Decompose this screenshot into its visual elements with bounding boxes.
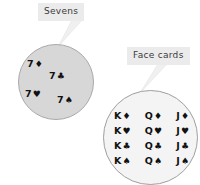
card-king-hearts: K♥ [114, 126, 130, 136]
spade-suit-icon: ♠ [64, 95, 73, 105]
card-rank: Q [145, 140, 153, 151]
card-queen-spades: Q♠ [145, 156, 162, 166]
diamond-suit-icon: ♦ [180, 111, 189, 121]
diamond-suit-icon: ♦ [34, 59, 43, 69]
card-jack-hearts: J♥ [176, 126, 189, 136]
face-cards-row-clubs: K♣ Q♣ J♣ [114, 141, 189, 151]
face-cards-row-diamonds: K♦ Q♦ J♦ [114, 111, 189, 121]
face-cards-callout-label: Face cards [127, 47, 190, 65]
card-rank: 7 [25, 88, 32, 99]
card-seven-clubs: 7♣ [49, 71, 65, 81]
heart-suit-icon: ♥ [32, 89, 41, 99]
heart-suit-icon: ♥ [121, 126, 130, 136]
card-jack-spades: J♠ [176, 156, 189, 166]
card-seven-diamonds: 7♦ [27, 59, 43, 69]
card-rank: Q [145, 155, 153, 166]
card-seven-spades: 7♠ [57, 95, 73, 105]
diamond-suit-icon: ♦ [153, 111, 162, 121]
card-seven-hearts: 7♥ [25, 89, 41, 99]
club-suit-icon: ♣ [180, 141, 189, 151]
card-sets-diagram: 7♦ 7♣ 7♥ 7♠ K♦ Q♦ J♦ K♥ Q♥ J♥ K♣ [0, 0, 200, 185]
sevens-set-circle: 7♦ 7♣ 7♥ 7♠ [18, 44, 94, 120]
heart-suit-icon: ♥ [180, 126, 189, 136]
card-queen-clubs: Q♣ [145, 141, 162, 151]
face-cards-row-hearts: K♥ Q♥ J♥ [114, 126, 189, 136]
face-cards-set-circle: K♦ Q♦ J♦ K♥ Q♥ J♥ K♣ Q♣ J♣ K♠ Q♠ J♠ [103, 90, 198, 185]
card-rank: Q [145, 110, 153, 121]
card-rank: 7 [27, 58, 34, 69]
spade-suit-icon: ♠ [121, 156, 130, 166]
club-suit-icon: ♣ [121, 141, 130, 151]
card-rank: Q [145, 125, 153, 136]
club-suit-icon: ♣ [56, 71, 65, 81]
spade-suit-icon: ♠ [153, 156, 162, 166]
card-jack-clubs: J♣ [176, 141, 189, 151]
face-cards-callout-tail [140, 64, 167, 93]
sevens-callout-label: Sevens [38, 3, 84, 21]
club-suit-icon: ♣ [153, 141, 162, 151]
heart-suit-icon: ♥ [153, 126, 162, 136]
card-king-clubs: K♣ [114, 141, 130, 151]
card-queen-diamonds: Q♦ [145, 111, 162, 121]
card-jack-diamonds: J♦ [176, 111, 189, 121]
card-king-diamonds: K♦ [114, 111, 130, 121]
card-queen-hearts: Q♥ [145, 126, 162, 136]
face-cards-row-spades: K♠ Q♠ J♠ [114, 156, 189, 166]
card-rank: 7 [49, 70, 56, 81]
spade-suit-icon: ♠ [180, 156, 189, 166]
card-king-spades: K♠ [114, 156, 130, 166]
sevens-callout-tail [58, 20, 82, 47]
card-rank: 7 [57, 94, 64, 105]
face-cards-grid: K♦ Q♦ J♦ K♥ Q♥ J♥ K♣ Q♣ J♣ K♠ Q♠ J♠ [114, 111, 189, 166]
diamond-suit-icon: ♦ [121, 111, 130, 121]
